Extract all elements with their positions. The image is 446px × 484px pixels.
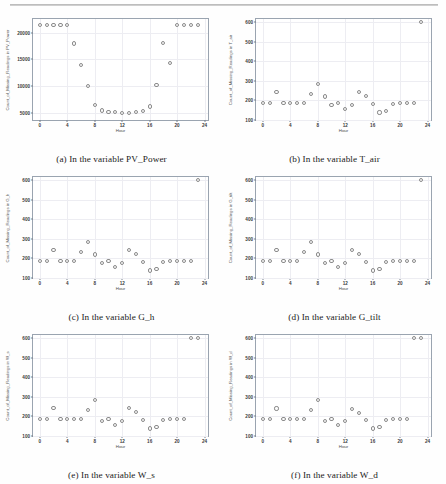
y-axis-label: Count_of_Missing_Readings in W_d — [228, 351, 233, 421]
scatter-point — [127, 406, 131, 410]
x-tick-label: 0 — [262, 120, 265, 128]
scatter-point — [120, 261, 124, 265]
scatter-point — [168, 61, 172, 65]
x-tick-label: 8 — [316, 436, 319, 444]
y-tick-label: 100 — [22, 276, 33, 281]
y-tick-label: 500 — [245, 39, 256, 44]
y-tick-label: 300 — [245, 236, 256, 241]
scatter-point — [134, 410, 138, 414]
scatter-point — [261, 417, 265, 421]
scatter-point — [350, 248, 354, 252]
scatter-plot: 04812162024100200300400500600HourCount_o… — [0, 328, 223, 460]
scatter-point — [309, 408, 313, 412]
scatter-point — [182, 259, 186, 263]
scatter-point — [113, 110, 117, 114]
scatter-point — [45, 417, 49, 421]
y-tick-label: 20000 — [17, 30, 33, 35]
y-axis-label: Count_of_Missing_Readings in T_air — [228, 34, 233, 104]
scatter-point — [274, 248, 278, 252]
y-tick-label: 500 — [22, 197, 33, 202]
scatter-point — [51, 23, 55, 27]
scatter-point — [343, 261, 347, 265]
y-tick-label: 500 — [245, 197, 256, 202]
panel-caption: (e) In the variable W_s — [0, 470, 223, 480]
x-tick-label: 20 — [398, 120, 403, 128]
plot-axes: 04812162024100200300400500600HourCount_o… — [32, 334, 209, 437]
scatter-point — [412, 336, 416, 340]
scatter-point — [148, 426, 152, 430]
scatter-point — [384, 418, 388, 422]
scatter-point — [419, 20, 423, 24]
scatter-point — [134, 252, 138, 256]
scatter-point — [398, 259, 402, 263]
y-tick-label: 200 — [22, 414, 33, 419]
scatter-point — [350, 103, 354, 107]
scatter-plot: 04812162024100200300400500600HourCount_o… — [223, 12, 446, 144]
plot-axes: 04812162024100200300400500600HourCount_o… — [255, 334, 432, 437]
x-tick-label: 4 — [66, 436, 69, 444]
scatter-point — [175, 259, 179, 263]
scatter-point — [419, 178, 423, 182]
y-tick-label: 100 — [22, 434, 33, 439]
gridline-horizontal — [256, 377, 431, 378]
gridline-horizontal — [256, 436, 431, 437]
gridline-vertical — [40, 19, 41, 120]
scatter-point — [120, 111, 124, 115]
gridline-vertical — [150, 335, 151, 436]
gridline-horizontal — [33, 180, 208, 181]
scatter-point — [364, 260, 368, 264]
scatter-point — [100, 261, 104, 265]
gridline-vertical — [205, 19, 206, 120]
scatter-point — [268, 101, 272, 105]
scatter-point — [93, 103, 97, 107]
x-tick-label: 12 — [343, 120, 348, 128]
scatter-point — [412, 259, 416, 263]
scatter-plot: 04812162024100200300400500600HourCount_o… — [223, 328, 446, 460]
y-tick-label: 600 — [245, 335, 256, 340]
scatter-point — [127, 248, 131, 252]
x-tick-label: 4 — [66, 278, 69, 286]
y-tick-label: 200 — [245, 98, 256, 103]
scatter-point — [141, 418, 145, 422]
x-tick-label: 16 — [147, 278, 152, 286]
scatter-point — [79, 63, 83, 67]
scatter-point — [261, 101, 265, 105]
scatter-point — [168, 259, 172, 263]
scatter-point — [189, 259, 193, 263]
gridline-horizontal — [33, 278, 208, 279]
gridline-vertical — [67, 19, 68, 120]
x-tick-label: 12 — [120, 278, 125, 286]
x-tick-label: 16 — [370, 278, 375, 286]
scatter-point — [93, 252, 97, 256]
scatter-point — [86, 408, 90, 412]
gridline-horizontal — [256, 358, 431, 359]
gridline-horizontal — [33, 86, 208, 87]
gridline-horizontal — [256, 120, 431, 121]
gridline-horizontal — [256, 61, 431, 62]
scatter-point — [65, 417, 69, 421]
gridline-horizontal — [256, 180, 431, 181]
scatter-point — [154, 267, 158, 271]
gridline-vertical — [318, 177, 319, 278]
x-axis-label: Hour — [116, 286, 126, 291]
scatter-point — [316, 252, 320, 256]
scatter-point — [377, 110, 381, 114]
gridline-horizontal — [256, 200, 431, 201]
x-tick-label: 0 — [39, 120, 42, 128]
figure-panel: 048121620245000100001500020000HourCount_… — [0, 10, 223, 168]
scatter-point — [357, 90, 361, 94]
x-tick-label: 16 — [370, 436, 375, 444]
y-tick-label: 200 — [245, 414, 256, 419]
scatter-point — [384, 109, 388, 113]
scatter-point — [79, 250, 83, 254]
scatter-point — [168, 417, 172, 421]
x-tick-label: 12 — [343, 278, 348, 286]
scatter-point — [288, 101, 292, 105]
scatter-point — [161, 418, 165, 422]
scatter-point — [65, 259, 69, 263]
scatter-point — [100, 419, 104, 423]
x-axis-label: Hour — [339, 444, 349, 449]
gridline-horizontal — [256, 278, 431, 279]
scatter-point — [175, 417, 179, 421]
x-tick-label: 24 — [425, 278, 430, 286]
